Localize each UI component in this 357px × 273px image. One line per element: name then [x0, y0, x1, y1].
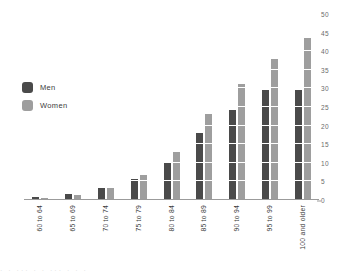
bar-men[interactable]: 29.7	[262, 90, 269, 200]
gridline	[262, 162, 269, 163]
bar-men[interactable]: 29.7	[295, 90, 302, 200]
bar-wrapper: 6.8	[140, 14, 147, 200]
x-axis-category-label: 70 to 74	[103, 205, 110, 232]
bar-wrapper: 38.0	[271, 14, 278, 200]
x-axis-category-label: 75 to 79	[135, 205, 142, 232]
y-axis-tick: 45	[321, 29, 329, 36]
y-axis-tick: 10	[321, 159, 329, 166]
gridline	[262, 143, 269, 144]
gridline	[173, 180, 180, 181]
bar-group: 10.312.880 to 84	[155, 14, 188, 200]
gridline	[164, 162, 171, 163]
bar-group: 29.743.6100 and older	[286, 14, 319, 200]
gridline	[304, 162, 311, 163]
gridline	[271, 69, 278, 70]
bar-wrapper: 3.1	[107, 14, 114, 200]
bar-women[interactable]: 12.8	[173, 152, 180, 200]
gridline	[271, 180, 278, 181]
gridline	[131, 180, 138, 181]
gridline	[229, 143, 236, 144]
gridline	[271, 143, 278, 144]
gridline	[304, 143, 311, 144]
gridline	[262, 125, 269, 126]
gridline	[140, 180, 147, 181]
gridline	[205, 143, 212, 144]
gridline	[238, 125, 245, 126]
y-axis-tick: 40	[321, 48, 329, 55]
y-axis: 05101520253035404550	[321, 14, 351, 200]
gridline	[205, 162, 212, 163]
gridline	[205, 125, 212, 126]
gridline	[196, 162, 203, 163]
bar-group: 29.738.095 to 99	[253, 14, 286, 200]
gridline	[196, 143, 203, 144]
gridline	[304, 180, 311, 181]
gridline	[164, 180, 171, 181]
bar-wrapper: 0.8	[32, 14, 39, 200]
bar-group: 24.231.390 to 94	[221, 14, 254, 200]
gridline	[262, 106, 269, 107]
bar-women[interactable]: 6.8	[140, 175, 147, 200]
y-axis-tick: 50	[321, 11, 329, 18]
x-axis-category-label: 80 to 84	[168, 205, 175, 232]
bar-wrapper: 31.3	[238, 14, 245, 200]
bar-wrapper: 12.8	[173, 14, 180, 200]
bar-wrapper: 0.6	[41, 14, 48, 200]
gridline	[229, 180, 236, 181]
gridline	[271, 162, 278, 163]
gridline	[304, 69, 311, 70]
bar-groups: 0.80.660 to 641.51.365 to 693.23.170 to …	[24, 14, 319, 200]
gridline	[262, 180, 269, 181]
bar-wrapper: 1.3	[74, 14, 81, 200]
y-axis-tick: 15	[321, 141, 329, 148]
bar-wrapper: 1.5	[65, 14, 72, 200]
gridline	[295, 162, 302, 163]
gridline	[295, 180, 302, 181]
y-axis-tick: 25	[321, 104, 329, 111]
bar-men[interactable]: 17.9	[196, 133, 203, 200]
gridline	[238, 180, 245, 181]
bar-wrapper: 29.7	[262, 14, 269, 200]
gridline	[295, 106, 302, 107]
gridline	[196, 180, 203, 181]
x-axis-line	[24, 199, 319, 200]
gridline	[295, 143, 302, 144]
gridline	[304, 87, 311, 88]
bar-men[interactable]: 10.3	[164, 162, 171, 200]
y-axis-tick-mark	[317, 200, 321, 201]
bar-wrapper: 17.9	[196, 14, 203, 200]
y-axis-tick: 35	[321, 66, 329, 73]
gridline	[238, 162, 245, 163]
bar-men[interactable]: 5.6	[131, 179, 138, 200]
bar-wrapper: 23.1	[205, 14, 212, 200]
gridline	[304, 125, 311, 126]
bar-women[interactable]: 43.6	[304, 38, 311, 200]
bar-wrapper: 5.6	[131, 14, 138, 200]
bar-women[interactable]: 38.0	[271, 59, 278, 200]
bar-chart: Men Women 0.80.660 to 641.51.365 to 693.…	[0, 0, 357, 273]
gridline	[238, 87, 245, 88]
x-axis-category-label: 100 and older	[299, 205, 306, 250]
bar-wrapper: 10.3	[164, 14, 171, 200]
gridline	[271, 87, 278, 88]
gridline	[271, 125, 278, 126]
x-axis-category-label: 90 to 94	[234, 205, 241, 232]
y-axis-tick: 20	[321, 122, 329, 129]
x-axis-category-label: 95 to 99	[266, 205, 273, 232]
gridline	[295, 125, 302, 126]
bar-group: 5.66.875 to 79	[122, 14, 155, 200]
bar-group: 1.51.365 to 69	[57, 14, 90, 200]
bar-wrapper: 24.2	[229, 14, 236, 200]
bar-wrapper: 43.6	[304, 14, 311, 200]
bar-women[interactable]: 23.1	[205, 114, 212, 200]
bar-wrapper: 3.2	[98, 14, 105, 200]
gridline	[238, 143, 245, 144]
gridline	[229, 162, 236, 163]
bar-group: 17.923.185 to 89	[188, 14, 221, 200]
x-axis-category-label: 65 to 69	[70, 205, 77, 232]
x-axis-category-label: 60 to 64	[37, 205, 44, 232]
gridline	[271, 106, 278, 107]
bar-women[interactable]: 31.3	[238, 84, 245, 200]
gridline	[238, 106, 245, 107]
bar-men[interactable]: 24.2	[229, 110, 236, 200]
